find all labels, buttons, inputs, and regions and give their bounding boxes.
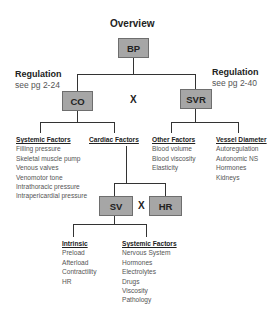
group-heading: Vessel Diameter (216, 135, 267, 144)
list-item: Hormones (122, 258, 177, 267)
list-item: Kidneys (216, 173, 267, 182)
node-co: CO (62, 91, 93, 111)
connector-line (114, 122, 115, 133)
connector-line (171, 122, 239, 123)
connector-line (126, 146, 127, 183)
connector-line (114, 183, 166, 184)
multiply-operator: X (138, 200, 145, 211)
group-heading: Cardiac Factors (89, 135, 139, 144)
connector-line (133, 58, 134, 74)
multiply-operator: X (130, 94, 137, 105)
list-item: Afterload (62, 258, 96, 267)
list-item: Blood volume (152, 144, 196, 153)
list-item: Autonomic NS (216, 154, 267, 163)
group-other-factors: Other Factors Blood volume Blood viscosi… (152, 135, 196, 173)
list-item: Venous valves (16, 163, 87, 172)
group-heading: Intrinsic (62, 239, 96, 248)
group-cardiac-factors: Cardiac Factors (89, 135, 139, 144)
connector-line (171, 122, 172, 133)
list-item: Filling pressure (16, 144, 87, 153)
group-heading: Other Factors (152, 135, 196, 144)
group-systemic-factors-co: Systemic Factors Filling pressure Skelet… (16, 135, 87, 201)
list-item: Venomotor tone (16, 173, 87, 182)
list-item: Pathology (122, 295, 177, 304)
connector-line (114, 183, 115, 196)
connector-line (146, 224, 147, 237)
connector-line (73, 224, 74, 237)
node-sv: SV (99, 196, 133, 216)
regulation-left-heading: Regulation (15, 69, 62, 80)
connector-line (40, 122, 41, 133)
group-systemic-factors-sv: Systemic Factors Nervous System Hormones… (122, 239, 177, 305)
regulation-right-heading: Regulation (212, 67, 259, 78)
regulation-right: Regulation see pg 2-40 (212, 67, 259, 89)
list-item: Skeletal muscle pump (16, 154, 87, 163)
list-item: HR (62, 277, 96, 286)
connector-line (165, 183, 166, 196)
connector-line (195, 109, 196, 122)
connector-line (77, 74, 196, 75)
list-item: Autoregulation (216, 144, 267, 153)
list-item: Blood viscosity (152, 154, 196, 163)
list-item: Drugs (122, 277, 177, 286)
list-item: Preload (62, 248, 96, 257)
connector-line (238, 122, 239, 133)
list-item: Hormones (216, 163, 267, 172)
regulation-right-ref: see pg 2-40 (212, 78, 259, 89)
group-intrinsic: Intrinsic Preload Afterload Contractilit… (62, 239, 96, 286)
list-item: Elasticity (152, 163, 196, 172)
node-hr: HR (149, 196, 182, 216)
connector-line (77, 74, 78, 91)
group-heading: Systemic Factors (16, 135, 87, 144)
list-item: Intrapericardial pressure (16, 191, 87, 200)
group-vessel-diameter: Vessel Diameter Autoregulation Autonomic… (216, 135, 267, 182)
list-item: Viscosity (122, 286, 177, 295)
node-bp: BP (118, 38, 149, 58)
regulation-left-ref: see pg 2-24 (15, 80, 62, 91)
node-svr: SVR (180, 89, 212, 109)
connector-line (114, 216, 115, 224)
list-item: Intrathoracic pressure (16, 182, 87, 191)
connector-line (40, 122, 115, 123)
list-item: Nervous System (122, 248, 177, 257)
list-item: Contractility (62, 267, 96, 276)
connector-line (73, 224, 147, 225)
regulation-left: Regulation see pg 2-24 (15, 69, 62, 91)
diagram-title: Overview (110, 18, 154, 29)
connector-line (195, 74, 196, 89)
connector-line (77, 111, 78, 122)
list-item: Electrolytes (122, 267, 177, 276)
group-heading: Systemic Factors (122, 239, 177, 248)
